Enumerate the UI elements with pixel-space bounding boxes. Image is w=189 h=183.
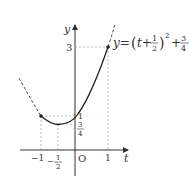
svg-text:1: 1	[152, 34, 157, 43]
t-tick-1: 1	[105, 153, 111, 163]
svg-text:): )	[159, 35, 164, 51]
t-tick-m1: −1	[31, 153, 44, 163]
equation-label: y= ( t+ 1 2 ) 2 + 3 4	[112, 32, 189, 53]
origin-label: O	[78, 153, 86, 164]
svg-text:2: 2	[165, 32, 169, 40]
svg-text:4: 4	[181, 44, 186, 53]
t-tick-mhalf-num: 1	[56, 154, 60, 162]
t-tick-mhalf-den: 2	[56, 163, 60, 171]
t-axis-label: t	[124, 152, 129, 165]
y-axis-label: y	[63, 23, 71, 36]
svg-text:+: +	[171, 36, 181, 50]
point-start	[39, 114, 43, 118]
t-tick-mhalf-sign: −	[47, 157, 54, 166]
y-tick-1: 1	[78, 112, 83, 121]
point-end	[106, 45, 110, 49]
svg-text:3: 3	[181, 34, 186, 43]
curve-extension-left	[19, 78, 41, 116]
y-tick-34-den: 4	[78, 130, 83, 138]
y-tick-3: 3	[66, 42, 72, 53]
svg-text:2: 2	[152, 44, 157, 53]
svg-text:y=: y=	[112, 36, 130, 50]
svg-text:(: (	[131, 35, 136, 51]
parabola-chart: y t O 3 1 3 4 −1 − 1 2 1 y= ( t+ 1 2 ) 2…	[0, 0, 189, 183]
svg-text:t+: t+	[137, 36, 152, 50]
y-tick-34-num: 3	[78, 121, 82, 129]
